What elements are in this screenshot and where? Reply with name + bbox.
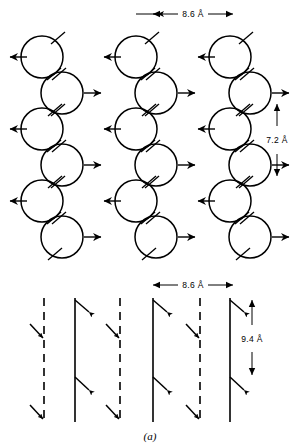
circle-group-3 [209,32,271,260]
figure-container: 8.6 Å 7.2 Å 8.6 Å 9.4 Å (a) [0,0,301,448]
circle-tick-marks [141,32,160,260]
tick-arrow [153,377,167,390]
packing-diagram-svg: 8.6 Å 7.2 Å 8.6 Å 9.4 Å (a) [0,0,301,448]
circle-lattice [21,32,271,260]
projection-line-solid [230,298,244,422]
dimension-arrowhead-left [153,282,160,288]
packing-circle [135,216,177,258]
packing-circle [41,72,83,114]
figure-caption: (a) [144,430,157,443]
dimension-arrowhead-up [274,104,280,111]
tick-arrow [106,324,119,338]
tick-arrow [106,405,119,419]
projection-line-dashed [186,298,200,422]
tick-arrow [153,300,167,312]
packing-circle [41,216,83,258]
top-horizontal-dimension-label: 8.6 Å [182,9,203,19]
tick-arrow [75,300,89,312]
tick-arrow [186,324,199,338]
projection-line-dashed [106,298,120,422]
dimension-arrowhead-down [274,169,280,176]
arrow-right-group [84,93,289,237]
packing-circle [229,144,271,186]
projection-line-solid [153,298,167,422]
circle-group-2 [115,32,177,260]
dimension-arrowhead-right [226,282,233,288]
projection-line-dashed [30,298,44,422]
bottom-horizontal-dimension-label: 8.6 Å [182,280,203,290]
top-vertical-dimension-label: 7.2 Å [266,135,287,145]
projection-line-solid [75,298,89,422]
circle-group-1 [21,32,83,260]
packing-circle [41,144,83,186]
circle-tick-marks [47,32,66,260]
tick-arrow [230,377,244,390]
tick-arrow [186,405,199,419]
tick-arrow [30,324,43,338]
tick-arrow [75,377,89,390]
circle-tick-marks [235,32,254,260]
tick-arrow [30,405,43,419]
dimension-arrowhead-left [153,11,160,17]
dimension-arrowhead-down [249,368,255,375]
packing-circle [229,216,271,258]
tick-arrow [230,300,244,312]
packing-circle [135,72,177,114]
dimension-arrowhead-up [249,300,255,307]
bottom-vertical-dimension-label: 9.4 Å [241,334,262,344]
dimension-arrowhead-right [226,11,233,17]
packing-circle [135,144,177,186]
packing-circle [229,72,271,114]
projection-lines [30,298,244,422]
